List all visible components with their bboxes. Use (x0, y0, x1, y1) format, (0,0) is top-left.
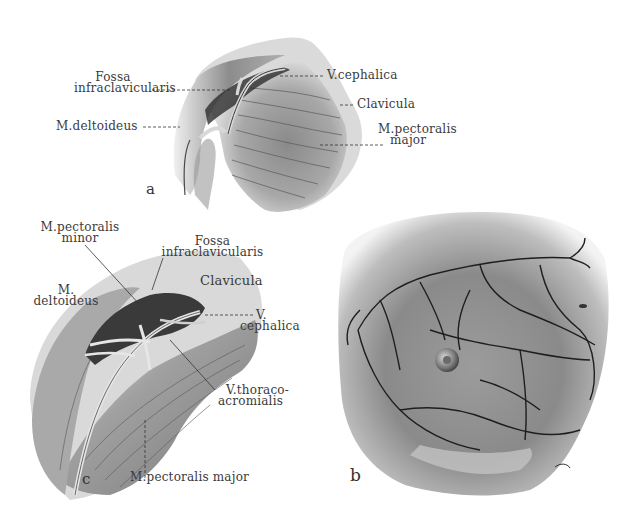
label-a-fossa-line2: infraclavicularis (74, 83, 152, 94)
label-c-deltoideus-line2: deltoideus (30, 296, 102, 307)
label-a-pectoralis-major: M.pectoralis major (378, 124, 457, 146)
label-c-pectoralis-minor: M.pectoralis minor (38, 222, 122, 244)
label-c-deltoideus: M. deltoideus (30, 285, 102, 307)
label-c-thoraco-line2: acromialis (218, 396, 289, 407)
panel-a-drawing (174, 37, 362, 211)
panel-letter-b: b (350, 465, 361, 485)
panel-letter-a: a (146, 180, 155, 198)
panel-b-drawing (338, 212, 608, 495)
label-a-cephalica: V.cephalica (327, 70, 398, 81)
label-c-fossa-line2: infraclavicularis (155, 247, 270, 258)
label-a-fossa: Fossa infraclavicularis (74, 72, 152, 94)
label-c-clavicula: Clavicula (200, 275, 263, 286)
label-a-pectoralis-line2: major (378, 135, 457, 146)
label-c-pectoralis-major: M.pectoralis major (130, 472, 249, 483)
panel-letter-c: c (82, 470, 90, 488)
label-c-thoracoacromialis: V.thoraco- acromialis (218, 385, 289, 407)
label-a-clavicula: Clavicula (357, 99, 415, 110)
label-c-cephalica: V. cephalica (240, 310, 300, 332)
label-c-cephalica-line2: cephalica (240, 321, 300, 332)
label-a-deltoideus: M.deltoideus (56, 121, 138, 132)
label-c-pect-minor-line2: minor (38, 233, 122, 244)
label-c-fossa: Fossa infraclavicularis (155, 236, 270, 258)
